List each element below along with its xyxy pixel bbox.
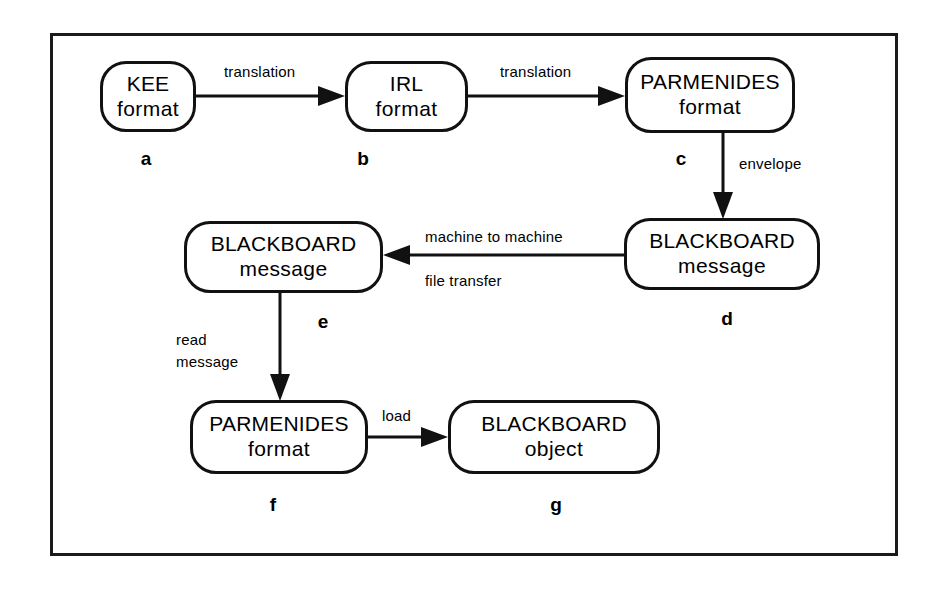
node-c-line1: PARMENIDES (640, 71, 779, 94)
node-g-caption: g (538, 494, 574, 516)
node-b-caption: b (345, 148, 381, 170)
node-a-caption: a (128, 148, 164, 170)
node-d[interactable]: BLACKBOARD message (624, 218, 820, 290)
node-e[interactable]: BLACKBOARD message (184, 221, 383, 293)
node-d-line2: message (678, 255, 766, 278)
diagram-canvas: KEE format a IRL format b PARMENIDES for… (0, 0, 945, 590)
node-f-caption: f (255, 494, 291, 516)
node-b-line2: format (376, 98, 438, 121)
edge-label-c-to-d: envelope (739, 155, 802, 172)
edge-label-d-to-e-top: machine to machine (425, 228, 563, 245)
node-f[interactable]: PARMENIDES format (190, 400, 368, 474)
edge-label-b-to-c: translation (500, 63, 571, 80)
node-d-caption: d (709, 308, 745, 330)
edge-label-d-to-e-bottom: file transfer (425, 272, 502, 289)
node-f-line2: format (248, 438, 310, 461)
node-b[interactable]: IRL format (345, 61, 468, 132)
node-e-line1: BLACKBOARD (211, 233, 357, 256)
node-d-line1: BLACKBOARD (649, 230, 795, 253)
node-a[interactable]: KEE format (100, 61, 196, 132)
node-g[interactable]: BLACKBOARD object (448, 400, 660, 474)
edge-label-a-to-b: translation (224, 63, 295, 80)
node-a-line1: KEE (127, 73, 170, 96)
node-e-caption: e (305, 311, 341, 333)
node-g-line1: BLACKBOARD (481, 413, 627, 436)
node-a-line2: format (117, 98, 179, 121)
node-b-line1: IRL (390, 73, 423, 96)
node-c-line2: format (679, 96, 741, 119)
edge-label-f-to-g: load (382, 407, 411, 424)
node-c[interactable]: PARMENIDES format (625, 57, 795, 133)
node-g-line2: object (525, 438, 583, 461)
node-c-caption: c (663, 148, 699, 170)
edge-label-e-to-f-line2: message (176, 352, 238, 372)
edge-label-e-to-f-line1: read (176, 330, 207, 350)
node-e-line2: message (239, 258, 327, 281)
node-f-line1: PARMENIDES (209, 413, 348, 436)
